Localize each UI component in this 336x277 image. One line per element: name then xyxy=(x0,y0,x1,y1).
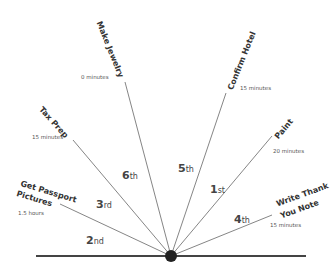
duration-confirm-hotel: 15 minutes xyxy=(240,85,271,91)
duration-paint: 20 minutes xyxy=(273,148,304,154)
duration-make-jewelry: 0 minutes xyxy=(81,74,109,80)
spoke-paint xyxy=(171,136,272,256)
duration-thank-you: 15 minutes xyxy=(270,222,301,228)
spoke-passport xyxy=(60,204,171,256)
hub-dot xyxy=(165,250,177,262)
ordinal-1st: 1st xyxy=(210,183,225,196)
ordinal-5th: 5th xyxy=(178,162,194,175)
spoke-thank-you xyxy=(171,215,272,256)
duration-tax-prep: 15 minutes xyxy=(32,134,63,140)
duration-passport: 1.5 hours xyxy=(18,210,44,216)
ordinal-4th: 4th xyxy=(234,213,250,226)
ordinal-2nd: 2nd xyxy=(86,234,104,247)
ordinal-3rd: 3rd xyxy=(96,198,112,211)
ordinal-6th: 6th xyxy=(122,169,138,182)
